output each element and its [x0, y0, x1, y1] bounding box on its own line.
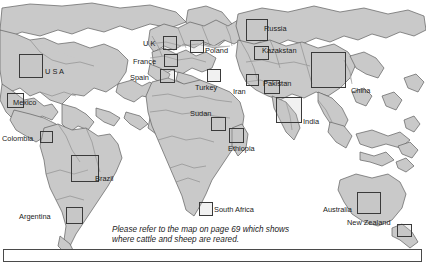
label-mexico: Mexico: [13, 99, 36, 107]
label-iran: Iran: [233, 88, 246, 96]
label-australia: Australia: [323, 206, 352, 214]
label-pakistan: Pakistan: [263, 80, 291, 88]
label-kazakstan: Kazakstan: [262, 47, 297, 55]
label-ethiopia: Ethiopia: [228, 145, 255, 153]
label-brazil: Brazil: [95, 175, 113, 183]
label-poland: Poland: [205, 47, 228, 55]
label-argentina: Argentina: [19, 213, 51, 221]
marker-turkey: [207, 69, 221, 82]
marker-usa: [19, 54, 43, 78]
marker-sudan: [211, 117, 226, 131]
label-turkey: Turkey: [195, 84, 217, 92]
label-india: India: [303, 118, 319, 126]
label-usa: U S A: [45, 68, 64, 76]
marker-colombia: [40, 131, 53, 143]
marker-ethiopia: [229, 128, 244, 143]
marker-france: [164, 54, 178, 67]
marker-argentina: [66, 207, 83, 224]
marker-australia: [357, 192, 381, 214]
label-uk: U K: [143, 40, 155, 48]
map-figure: U S AMexicoColombiaBrazilArgentinaU KFra…: [0, 0, 426, 263]
label-sudan: Sudan: [190, 110, 211, 118]
marker-iran: [246, 74, 259, 86]
label-south-africa: South Africa: [214, 206, 254, 214]
marker-spain: [160, 69, 175, 83]
marker-south-africa: [199, 202, 213, 216]
caption-line-2: where cattle and sheep are reared.: [112, 235, 352, 245]
marker-india: [276, 97, 302, 123]
label-new-zealand: New Zealand: [347, 219, 391, 227]
label-russia: Russia: [264, 25, 287, 33]
label-france: France: [133, 58, 156, 66]
caption-line-1: Please refer to the map on page 69 which…: [112, 225, 352, 235]
label-colombia: Colombia: [2, 135, 33, 143]
marker-poland: [190, 40, 204, 53]
label-spain: Spain: [130, 74, 149, 82]
bottom-frame-box: [3, 249, 422, 262]
map-caption: Please refer to the map on page 69 which…: [112, 225, 352, 245]
marker-china: [311, 52, 346, 88]
marker-uk: [163, 36, 177, 50]
label-china: China: [351, 87, 370, 95]
marker-new-zealand: [397, 224, 412, 237]
